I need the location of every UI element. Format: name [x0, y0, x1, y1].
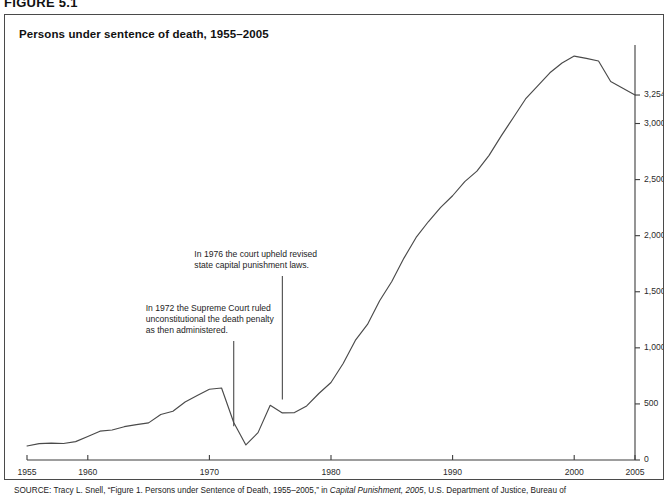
y-tick-label: 1,500	[644, 286, 663, 296]
x-tick-label: 1960	[78, 467, 97, 477]
source-text-part1: Tracy L. Snell, “Figure 1. Persons under…	[51, 486, 330, 495]
source-label: SOURCE:	[14, 486, 51, 495]
line-chart: 195519601970198019902000200505001,0001,5…	[5, 15, 663, 479]
source-note: SOURCE: Tracy L. Snell, “Figure 1. Perso…	[14, 486, 660, 496]
y-tick-label: 1,000	[644, 342, 663, 352]
chart-plot-area: 195519601970198019902000200505001,0001,5…	[5, 15, 663, 479]
annotation-1972-line: as then administered.	[146, 325, 228, 335]
y-tick-label: 3,000	[644, 118, 663, 128]
x-tick-label: 1955	[17, 467, 36, 477]
annotation-1976-line: state capital punishment laws.	[194, 260, 309, 270]
figure-number-label: FIGURE 5.1	[4, 0, 78, 10]
x-tick-label: 1980	[321, 467, 340, 477]
y-tick-label: 0	[644, 454, 649, 464]
annotation-1972-line: In 1972 the Supreme Court ruled	[146, 303, 271, 313]
x-tick-label: 1970	[200, 467, 219, 477]
source-publication-title: Capital Punishment, 2005	[330, 486, 424, 495]
y-tick-label: 2,500	[644, 174, 663, 184]
x-tick-label: 2000	[565, 467, 584, 477]
y-tick-label: 2,000	[644, 230, 663, 240]
data-series-line	[27, 56, 635, 446]
figure-page: FIGURE 5.1 Persons under sentence of dea…	[0, 0, 670, 498]
y-tick-label: 3,254	[644, 89, 663, 99]
source-text-part2: , U.S. Department of Justice, Bureau of	[424, 486, 566, 495]
annotation-1972-line: unconstitutional the death penalty	[146, 314, 275, 324]
x-tick-label: 2005	[625, 467, 644, 477]
annotation-1976-line: In 1976 the court upheld revised	[194, 249, 317, 259]
x-tick-label: 1990	[443, 467, 462, 477]
y-tick-label: 500	[644, 398, 659, 408]
figure-box: Persons under sentence of death, 1955–20…	[4, 14, 664, 480]
